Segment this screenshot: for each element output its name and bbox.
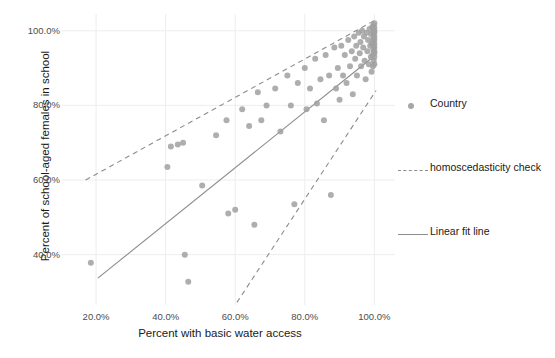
scatter-point (342, 52, 348, 58)
scatter-point (340, 73, 346, 79)
scatter-point (88, 260, 94, 266)
legend-entry-country: Country (398, 88, 555, 152)
scatter-point (371, 61, 377, 67)
scatter-point (317, 76, 323, 82)
scatter-point (232, 207, 238, 213)
scatter-point (307, 86, 313, 92)
scatter-point (224, 117, 230, 123)
dashed-line-icon (398, 170, 428, 171)
scatter-points (88, 20, 377, 285)
scatter-point (291, 201, 297, 207)
chart-root: Percent of school-aged females in school… (0, 0, 555, 358)
legend-key-line (398, 227, 428, 241)
scatter-point (314, 101, 320, 107)
scatter-point (246, 123, 252, 129)
scatter-point (213, 132, 219, 138)
y-tick-label: 80.0% (8, 99, 60, 110)
scatter-point (264, 102, 270, 108)
x-tick-label: 20.0% (66, 311, 126, 322)
scatter-point (258, 117, 264, 123)
scatter-point (349, 48, 355, 54)
scatter-point (168, 143, 174, 149)
scatter-point (185, 279, 191, 285)
scatter-point (251, 222, 257, 228)
scatter-point (182, 252, 188, 258)
legend-label-homoscedasticity: homoscedasticity check (430, 161, 541, 173)
scatter-point (302, 65, 308, 71)
scatter-point (371, 54, 377, 60)
scatter-point (284, 73, 290, 79)
scatter-point (323, 52, 329, 58)
scatter-point (371, 37, 377, 43)
scatter-point (175, 142, 181, 148)
scatter-point (357, 39, 363, 45)
scatter-point (344, 80, 350, 86)
scatter-point (225, 211, 231, 217)
scatter-point (352, 56, 358, 62)
scatter-point (337, 97, 343, 103)
scatter-point (277, 129, 283, 135)
scatter-point (369, 69, 375, 75)
x-tick-label: 80.0% (275, 311, 335, 322)
scatter-point (288, 102, 294, 108)
x-tick-label: 100.0% (344, 311, 404, 322)
scatter-point (347, 63, 353, 69)
scatter-point (345, 37, 351, 43)
scatter-point (199, 183, 205, 189)
scatter-point (295, 80, 301, 86)
y-tick-label: 60.0% (8, 174, 60, 185)
scatter-point (364, 48, 370, 54)
solid-line-icon (398, 234, 428, 235)
scatter-point (335, 65, 341, 71)
legend-entry-linear-fit: Linear fit line (398, 216, 555, 280)
y-tick-label: 100.0% (8, 25, 60, 36)
trend-lines (86, 20, 376, 303)
scatter-point (239, 106, 245, 112)
scatter-point (331, 45, 337, 51)
scatter-point (272, 86, 278, 92)
x-tick-label: 60.0% (205, 311, 265, 322)
scatter-point (312, 56, 318, 62)
legend-key-dot (398, 99, 428, 113)
legend-entry-homoscedasticity: homoscedasticity check (398, 152, 555, 216)
country-dot-icon (408, 103, 414, 109)
scatter-point (255, 89, 261, 95)
scatter-point (321, 117, 327, 123)
legend-label-linear-fit: Linear fit line (430, 225, 490, 237)
scatter-point (180, 140, 186, 146)
legend-label-country: Country (430, 97, 467, 109)
scatter-point (358, 63, 364, 69)
scatter-point (371, 48, 377, 54)
scatter-point (304, 106, 310, 112)
x-tick-label: 40.0% (136, 311, 196, 322)
scatter-point (371, 25, 377, 31)
chart-legend: Country homoscedasticity check Linear fi… (398, 88, 555, 280)
scatter-point (328, 192, 334, 198)
scatter-point (350, 91, 356, 97)
scatter-point (338, 43, 344, 49)
scatter-point (326, 73, 332, 79)
scatter-point (363, 76, 369, 82)
scatter-point (357, 50, 363, 56)
scatter-point (164, 164, 170, 170)
legend-key-dash (398, 163, 428, 177)
scatter-point (333, 86, 339, 92)
y-tick-label: 40.0% (8, 249, 60, 260)
scatter-point (354, 73, 360, 79)
